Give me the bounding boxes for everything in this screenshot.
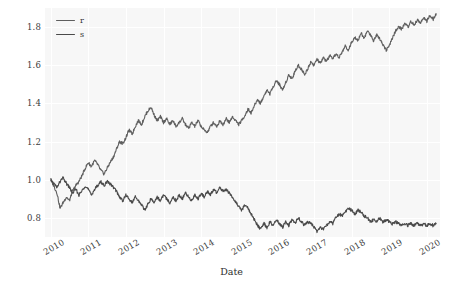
x-tick-label: 2019 (380, 237, 404, 257)
x-tick-label: 2017 (305, 237, 329, 257)
legend-line-swatch (56, 34, 75, 36)
plot-area (45, 8, 440, 237)
y-tick-label: 0.8 (1, 213, 41, 223)
series-lines (45, 8, 440, 237)
y-tick-label: 1.6 (1, 60, 41, 70)
legend-label: s (80, 30, 84, 39)
series-line-r (51, 14, 437, 208)
x-tick-label: 2020 (417, 237, 441, 257)
x-tick-label: 2011 (79, 237, 103, 257)
x-tick-label: 2018 (342, 237, 366, 257)
x-tick-label: 2016 (267, 237, 291, 257)
x-tick-label: 2010 (41, 237, 65, 257)
y-axis-ticks: 0.81.01.21.41.61.8 (0, 8, 41, 237)
chart-legend: rs (52, 14, 88, 41)
series-line-s (51, 177, 437, 233)
y-tick-label: 1.0 (1, 175, 41, 185)
legend-item-s[interactable]: s (56, 30, 84, 39)
x-tick-label: 2015 (229, 237, 253, 257)
y-tick-label: 1.4 (1, 98, 41, 108)
x-tick-label: 2012 (116, 237, 140, 257)
y-tick-label: 1.2 (1, 137, 41, 147)
legend-label: r (80, 16, 84, 25)
legend-item-r[interactable]: r (56, 16, 84, 25)
x-axis-ticks: 2010201120122013201420152016201720182019… (45, 237, 440, 269)
x-tick-label: 2013 (154, 237, 178, 257)
x-axis-label: Date (0, 266, 463, 277)
legend-line-swatch (56, 20, 75, 22)
chart-figure: 0.81.01.21.41.61.8 201020112012201320142… (0, 0, 463, 289)
y-tick-label: 1.8 (1, 22, 41, 32)
x-tick-label: 2014 (192, 237, 216, 257)
